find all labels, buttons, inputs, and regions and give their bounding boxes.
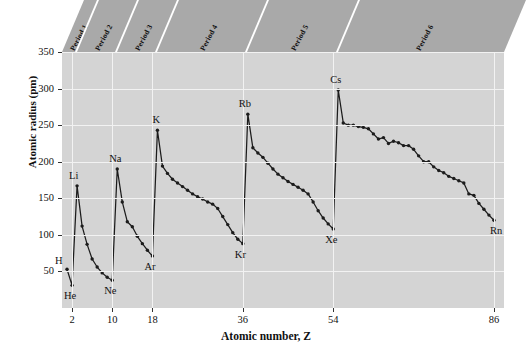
- data-point-marker: [191, 192, 194, 195]
- x-axis-title: Atomic number, Z: [0, 330, 532, 342]
- data-point-marker: [377, 137, 380, 140]
- data-point-marker: [311, 200, 314, 203]
- element-point-label: Ne: [104, 286, 116, 297]
- data-point-marker: [146, 249, 149, 252]
- data-point-marker: [286, 180, 289, 183]
- x-axis-tick-mark: [152, 308, 153, 312]
- data-point-marker: [80, 224, 83, 227]
- data-point-marker: [246, 112, 249, 115]
- period-band-divider: [336, 0, 360, 52]
- gridline-horizontal: [62, 125, 504, 126]
- data-point-marker: [442, 171, 445, 174]
- data-point-marker: [221, 215, 224, 218]
- y-axis-title: Atomic radius (pm): [26, 42, 38, 202]
- period-band-divider: [75, 0, 99, 52]
- data-point-marker: [306, 192, 309, 195]
- chart-figure: Period 1Period 2Period 3Period 4Period 5…: [0, 0, 532, 349]
- data-point-marker: [216, 207, 219, 210]
- period-band-divider: [155, 0, 179, 52]
- data-point-marker: [85, 243, 88, 246]
- data-point-marker: [231, 231, 234, 234]
- data-point-marker: [176, 181, 179, 184]
- x-axis-tick-label: 54: [318, 315, 348, 326]
- data-point-marker: [181, 185, 184, 188]
- data-point-marker: [126, 220, 129, 223]
- data-point-marker: [412, 148, 415, 151]
- data-point-marker: [457, 179, 460, 182]
- data-point-marker: [156, 129, 159, 132]
- gridline-vertical: [243, 52, 244, 308]
- gridline-horizontal: [62, 52, 504, 53]
- y-axis-tick-mark: [58, 52, 62, 53]
- x-axis-tick-mark: [243, 308, 244, 312]
- y-axis-tick-mark: [58, 235, 62, 236]
- y-axis-tick-mark: [58, 89, 62, 90]
- period-band-label: Period 4: [198, 23, 219, 52]
- x-axis-tick-label: 36: [228, 315, 258, 326]
- data-point-marker: [211, 202, 214, 205]
- data-point-marker: [291, 183, 294, 186]
- x-axis-tick-label: 18: [137, 315, 167, 326]
- data-point-marker: [362, 126, 365, 129]
- data-point-marker: [372, 132, 375, 135]
- x-axis-tick-mark: [112, 308, 113, 312]
- data-point-marker: [316, 209, 319, 212]
- gridline-horizontal: [62, 162, 504, 163]
- y-axis-tick-mark: [58, 271, 62, 272]
- data-point-marker: [301, 189, 304, 192]
- gridline-vertical: [333, 52, 334, 308]
- data-point-marker: [141, 242, 144, 245]
- period-band-label: Period 3: [133, 23, 154, 52]
- y-axis-tick-mark: [58, 198, 62, 199]
- period-band-label: Period 6: [414, 23, 435, 52]
- data-point-marker: [226, 223, 229, 226]
- data-point-marker: [452, 177, 455, 180]
- data-point-marker: [487, 213, 490, 216]
- data-point-marker: [327, 222, 330, 225]
- period-band-strip: Period 1Period 2Period 3Period 4Period 5…: [0, 0, 532, 54]
- data-point-marker: [261, 156, 264, 159]
- data-point-marker: [106, 276, 109, 279]
- data-point-marker: [407, 144, 410, 147]
- plot-area: [62, 52, 504, 308]
- data-point-marker: [367, 127, 370, 130]
- data-point-marker: [437, 169, 440, 172]
- data-point-marker: [417, 154, 420, 157]
- x-axis-tick-mark: [494, 308, 495, 312]
- element-point-label: Xe: [325, 235, 337, 246]
- period-band-label: Period 5: [289, 23, 310, 52]
- period-band-divider: [245, 0, 269, 52]
- data-point-marker: [402, 144, 405, 147]
- x-axis-tick-mark: [333, 308, 334, 312]
- data-point-marker: [95, 265, 98, 268]
- gridline-vertical: [112, 52, 113, 308]
- data-point-marker: [321, 216, 324, 219]
- data-point-marker: [251, 146, 254, 149]
- period-band-label: Period 2: [93, 23, 114, 52]
- element-point-label: Cs: [330, 75, 341, 86]
- y-axis-tick-mark: [58, 162, 62, 163]
- data-point-marker: [90, 257, 93, 260]
- gridline-horizontal: [62, 198, 504, 199]
- data-point-marker: [477, 202, 480, 205]
- element-point-label: Rb: [239, 99, 251, 110]
- data-point-marker: [271, 167, 274, 170]
- data-point-marker: [75, 184, 78, 187]
- gridline-vertical: [494, 52, 495, 308]
- data-point-marker: [166, 172, 169, 175]
- data-point-marker: [462, 181, 465, 184]
- element-point-label: Kr: [235, 250, 246, 261]
- data-point-marker: [121, 200, 124, 203]
- y-axis-tick-label: 50: [20, 266, 54, 277]
- x-axis-tick-label: 86: [479, 315, 509, 326]
- element-point-label: Na: [109, 154, 121, 165]
- data-point-marker: [281, 176, 284, 179]
- data-point-marker: [116, 167, 119, 170]
- gridline-horizontal: [62, 271, 504, 272]
- data-point-marker: [447, 175, 450, 178]
- element-point-label: H: [55, 256, 63, 267]
- x-axis-tick-label: 2: [57, 315, 87, 326]
- data-point-marker: [131, 225, 134, 228]
- y-axis-tick-mark: [58, 125, 62, 126]
- data-point-marker: [256, 151, 259, 154]
